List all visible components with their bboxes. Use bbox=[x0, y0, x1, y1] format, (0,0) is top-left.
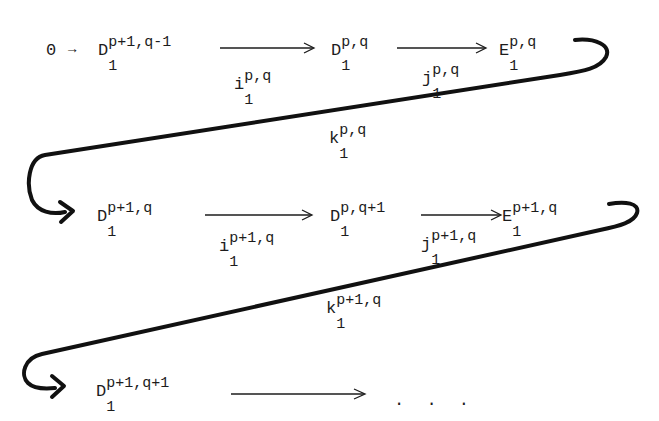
term-D-p-q1: Dp,q+11 bbox=[330, 208, 340, 225]
term-D-pq: Dp,q1 bbox=[331, 42, 341, 59]
arrow-j-row1 bbox=[397, 43, 486, 53]
arrow-j-row2 bbox=[421, 210, 501, 220]
zero-object: 0 bbox=[46, 42, 56, 59]
label-i-pq: ip,q1 bbox=[234, 76, 244, 93]
arrow-i-row1 bbox=[220, 43, 314, 53]
term-D-p1-q1: Dp+1,q+11 bbox=[96, 383, 106, 400]
term-D-p1-qm1: Dp+1,q-11 bbox=[98, 42, 108, 59]
exact-sequence-diagram: 0 → Dp+1,q-11 ip,q1 Dp,q1 jp,q1 Ep,q1 kp… bbox=[0, 0, 659, 421]
term-E-pq: Ep,q1 bbox=[499, 42, 509, 59]
label-j-pq: jp,q1 bbox=[422, 70, 432, 87]
label-i-p1-q: ip+1,q1 bbox=[219, 238, 229, 255]
zero-arrow: → bbox=[68, 42, 76, 56]
term-D-p1-q: Dp+1,q1 bbox=[97, 208, 107, 225]
label-j-p1-q: jp+1,q1 bbox=[421, 236, 431, 253]
label-k-pq: kp,q1 bbox=[329, 130, 339, 147]
arrow-row3 bbox=[231, 389, 365, 399]
arrow-i-row2 bbox=[205, 210, 312, 220]
label-k-p1-q: kp+1,q1 bbox=[326, 300, 336, 317]
ellipsis-continuation: . . . bbox=[394, 392, 475, 409]
term-E-p1-q: Ep+1,q1 bbox=[502, 208, 512, 225]
